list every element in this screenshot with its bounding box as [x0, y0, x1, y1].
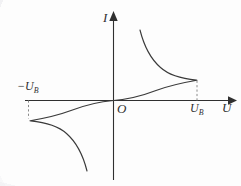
vertical-axis-arrowhead [109, 11, 117, 21]
positive-breakdown-voltage-label: UB [190, 102, 204, 117]
negative-breakdown-voltage-symbol: −U [17, 79, 34, 93]
negative-breakdown-voltage-label: −UB [17, 80, 39, 95]
positive-breakdown-voltage-symbol: U [190, 101, 199, 115]
iv-characteristic-figure: I U O −UB UB [0, 0, 241, 186]
origin-label: O [117, 102, 126, 115]
horizontal-axis-label: U [222, 101, 231, 114]
positive-breakdown-voltage-subscript: B [199, 108, 204, 117]
vertical-axis [109, 11, 117, 180]
negative-breakdown-voltage-subscript: B [34, 86, 39, 95]
vertical-axis-label: I [103, 11, 107, 24]
